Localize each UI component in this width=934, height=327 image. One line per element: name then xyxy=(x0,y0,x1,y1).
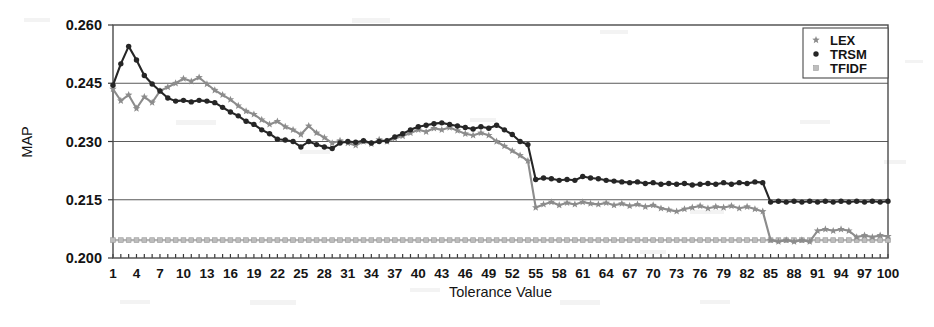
x-axis-tick-label: 73 xyxy=(669,266,685,281)
series-marker-tfidf xyxy=(220,238,225,243)
series-marker-tfidf xyxy=(408,238,413,243)
series-marker-trsm xyxy=(322,144,327,149)
legend-label-tfidf: TFIDF xyxy=(830,61,867,76)
series-marker-tfidf xyxy=(878,238,883,243)
series-marker-trsm xyxy=(196,98,201,103)
series-marker-trsm xyxy=(400,131,405,136)
series-marker-trsm xyxy=(345,139,350,144)
series-marker-trsm xyxy=(784,199,789,204)
x-axis-tick-label: 19 xyxy=(246,266,261,281)
x-axis-tick-label: 10 xyxy=(176,266,191,281)
series-marker-trsm xyxy=(455,123,460,128)
series-marker-tfidf xyxy=(291,238,296,243)
scan-noise xyxy=(470,118,496,122)
series-marker-lex xyxy=(657,204,664,211)
x-axis-tick-label: 13 xyxy=(199,266,215,281)
series-marker-tfidf xyxy=(306,238,311,243)
series-marker-tfidf xyxy=(244,238,249,243)
series-marker-tfidf xyxy=(439,238,444,243)
series-marker-lex xyxy=(837,225,844,232)
series-marker-tfidf xyxy=(228,238,233,243)
series-marker-tfidf xyxy=(604,238,609,243)
series-marker-tfidf xyxy=(111,238,116,243)
series-marker-tfidf xyxy=(432,238,437,243)
series-marker-trsm xyxy=(157,88,162,93)
legend-marker-tfidf xyxy=(814,66,819,71)
x-axis-tick-label: 94 xyxy=(834,266,850,281)
series-marker-tfidf xyxy=(361,238,366,243)
series-marker-trsm xyxy=(744,181,749,186)
series-marker-trsm xyxy=(690,182,695,187)
series-marker-trsm xyxy=(486,126,491,131)
series-marker-lex xyxy=(422,128,429,135)
series-marker-tfidf xyxy=(455,238,460,243)
series-marker-trsm xyxy=(658,182,663,187)
series-marker-trsm xyxy=(392,134,397,139)
series-marker-trsm xyxy=(635,179,640,184)
series-marker-trsm xyxy=(314,142,319,147)
series-marker-trsm xyxy=(408,127,413,132)
series-marker-tfidf xyxy=(846,238,851,243)
series-marker-trsm xyxy=(705,181,710,186)
y-axis-tick-label: 0.230 xyxy=(66,134,102,150)
series-marker-trsm xyxy=(799,199,804,204)
series-marker-tfidf xyxy=(494,238,499,243)
x-axis-tick-label: 67 xyxy=(622,266,637,281)
series-marker-tfidf xyxy=(753,238,758,243)
series-marker-tfidf xyxy=(760,238,765,243)
series-marker-tfidf xyxy=(729,238,734,243)
series-marker-tfidf xyxy=(612,238,617,243)
series-marker-trsm xyxy=(557,178,562,183)
series-marker-trsm xyxy=(220,105,225,110)
series-marker-trsm xyxy=(181,98,186,103)
series-marker-trsm xyxy=(823,199,828,204)
series-marker-trsm xyxy=(791,199,796,204)
scan-noise xyxy=(176,120,216,125)
series-marker-lex xyxy=(665,206,672,213)
series-marker-tfidf xyxy=(541,238,546,243)
series-marker-tfidf xyxy=(314,238,319,243)
series-marker-tfidf xyxy=(706,238,711,243)
series-marker-trsm xyxy=(549,176,554,181)
x-axis-tick-label: 46 xyxy=(458,266,474,281)
series-marker-tfidf xyxy=(259,238,264,243)
series-marker-trsm xyxy=(165,95,170,100)
series-marker-trsm xyxy=(870,199,875,204)
chart-figure: 0.2000.2150.2300.2450.260147101316192225… xyxy=(0,0,934,327)
series-marker-tfidf xyxy=(839,238,844,243)
series-marker-trsm xyxy=(110,82,115,87)
y-axis-tick-label: 0.245 xyxy=(66,75,102,91)
scan-noise xyxy=(410,288,440,292)
series-marker-lex xyxy=(532,204,539,211)
series-marker-lex xyxy=(477,129,484,136)
series-marker-trsm xyxy=(846,199,851,204)
series-marker-tfidf xyxy=(385,238,390,243)
series-marker-tfidf xyxy=(416,238,421,243)
series-marker-trsm xyxy=(494,122,499,127)
series-marker-trsm xyxy=(619,179,624,184)
series-marker-tfidf xyxy=(745,238,750,243)
x-axis-tick-label: 88 xyxy=(787,266,803,281)
series-marker-tfidf xyxy=(596,238,601,243)
series-marker-tfidf xyxy=(635,238,640,243)
series-marker-tfidf xyxy=(502,238,507,243)
series-marker-lex xyxy=(689,204,696,211)
series-marker-lex xyxy=(751,205,758,212)
series-marker-tfidf xyxy=(525,238,530,243)
x-axis-tick-label: 76 xyxy=(693,266,709,281)
series-marker-tfidf xyxy=(619,238,624,243)
series-marker-trsm xyxy=(126,44,131,49)
series-marker-trsm xyxy=(737,180,742,185)
series-marker-lex xyxy=(712,203,719,210)
scan-noise xyxy=(560,300,600,305)
series-marker-tfidf xyxy=(682,238,687,243)
series-marker-lex xyxy=(610,201,617,208)
series-marker-tfidf xyxy=(588,238,593,243)
x-axis-tick-label: 49 xyxy=(481,266,496,281)
series-marker-tfidf xyxy=(486,238,491,243)
x-axis-tick-label: 4 xyxy=(133,266,141,281)
series-marker-tfidf xyxy=(815,238,820,243)
map-vs-tolerance-line-chart: 0.2000.2150.2300.2450.260147101316192225… xyxy=(0,0,934,327)
series-marker-trsm xyxy=(831,199,836,204)
series-marker-tfidf xyxy=(134,238,139,243)
